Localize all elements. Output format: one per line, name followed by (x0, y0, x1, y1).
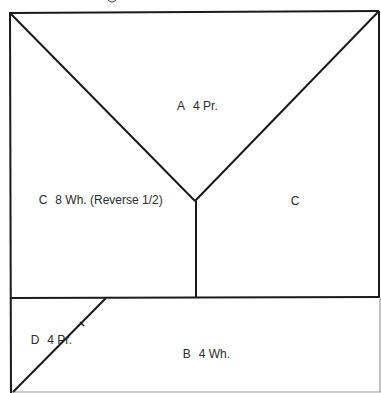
piece-a-spec: 4 Pr. (193, 99, 218, 113)
horizontal-divider-line (10, 297, 380, 298)
piece-d-spec: 4 Pr. (47, 333, 72, 347)
piece-a-label: A4 Pr. (171, 85, 218, 113)
piece-c-right-label: C (284, 180, 299, 208)
cropped-caption-fragment (108, 0, 116, 2)
piece-d-label: D4 Pr. (24, 319, 72, 347)
piece-c-left-letter: C (39, 193, 48, 207)
left-border-line (10, 13, 11, 393)
top-border-line (9, 11, 379, 13)
piece-c-right-letter: C (291, 194, 300, 208)
right-diagonal-line (195, 11, 379, 201)
piece-b-label: B4 Wh. (176, 333, 230, 361)
piece-c-left-spec: 8 Wh. (Reverse 1/2) (55, 193, 162, 207)
piece-d-letter: D (31, 333, 40, 347)
piece-b-letter: B (183, 347, 191, 361)
piece-b-spec: 4 Wh. (199, 347, 230, 361)
left-diagonal-line (10, 13, 195, 201)
piece-c-left-label: C8 Wh. (Reverse 1/2) (32, 179, 163, 207)
piece-a-letter: A (177, 99, 185, 113)
